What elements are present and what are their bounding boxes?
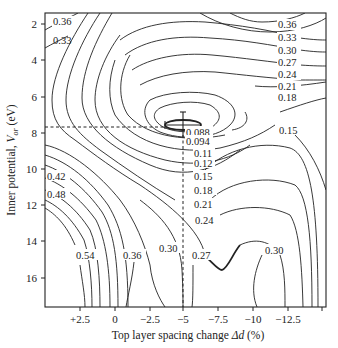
y-tick-label: 10 [26, 163, 38, 175]
y-tick-label: 2 [32, 18, 38, 30]
contour-label: 0.33 [53, 35, 71, 46]
contour-label: 0.094 [186, 136, 210, 147]
contour-label: 0.36 [278, 19, 296, 30]
contour-label: 0.33 [278, 32, 296, 43]
y-tick-label: 16 [26, 272, 38, 284]
contour-label: 0.30 [278, 45, 296, 56]
y-axis: 2 4 6 8 10 12 14 16 [26, 18, 45, 284]
x-axis: +2.5 0 −2.5 −5 −7.5 −10 −12.5 [70, 307, 322, 325]
contour-label: 0.21 [278, 81, 296, 92]
contour-label: 0.30 [265, 245, 283, 256]
contour-label: 0.18 [278, 92, 296, 103]
x-axis-title: Top layer spacing change Δd (%) [112, 329, 265, 342]
contour-label: 0.12 [194, 158, 212, 169]
contour-label: 0.15 [279, 125, 297, 136]
y-tick-label: 8 [32, 127, 38, 139]
contour-label: 0.30 [159, 243, 177, 254]
x-tick-label: −10 [244, 313, 262, 325]
contour-label: 0.27 [278, 57, 296, 68]
contour-label: 0.48 [47, 189, 65, 200]
x-tick-label: −2.5 [140, 313, 160, 325]
y-tick-label: 6 [32, 91, 38, 103]
x-tick-label: −7.5 [208, 313, 228, 325]
contour-label: 0.27 [192, 250, 210, 261]
contour-label: 0.18 [194, 185, 212, 196]
contour-label: 0.42 [47, 171, 65, 182]
x-tick-label: −12.5 [275, 313, 301, 325]
y-tick-label: 14 [26, 235, 38, 247]
y-tick-label: 12 [26, 199, 37, 211]
contour-label: 0.15 [194, 171, 212, 182]
contour-label: 0.21 [194, 199, 212, 210]
y-axis-title: Inner potential, Vor (eV) [5, 104, 20, 215]
x-tick-label: 0 [112, 313, 118, 325]
y-tick-label: 4 [32, 54, 38, 66]
contour-label: 0.24 [195, 215, 214, 226]
contour-label: 0.24 [278, 69, 297, 80]
contour-labels: 0.36 0.33 0.36 0.33 0.30 0.27 0.24 0.21 … [46, 16, 301, 261]
x-tick-label: −5 [177, 313, 189, 325]
contour-label: 0.54 [76, 250, 95, 261]
x-tick-label: +2.5 [70, 313, 90, 325]
contour-label: 0.36 [123, 250, 141, 261]
contour-label: 0.36 [53, 16, 71, 27]
contour-chart: 2 4 6 8 10 12 14 16 +2.5 0 −2.5 −5 −7.5 … [0, 0, 338, 348]
